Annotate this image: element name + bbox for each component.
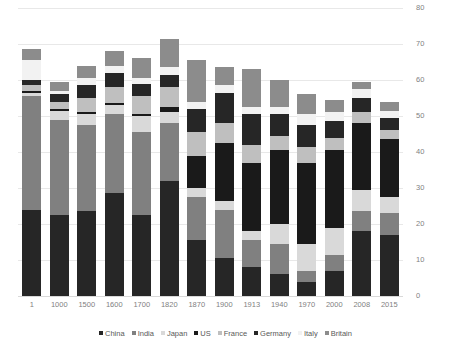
bar-segment-china-1940[interactable] — [270, 274, 289, 296]
bar-segment-japan-1500[interactable] — [77, 114, 96, 125]
bar-segment-france-1900[interactable] — [215, 123, 234, 143]
bar-1970[interactable] — [297, 94, 316, 296]
bar-segment-france-1820[interactable] — [160, 87, 179, 107]
legend-item-china[interactable]: China — [99, 329, 125, 338]
bar-segment-india-1600[interactable] — [105, 114, 124, 193]
bar-segment-italy-1940[interactable] — [270, 107, 289, 114]
legend-item-france[interactable]: France — [218, 329, 247, 338]
bar-1900[interactable] — [215, 67, 234, 296]
bar-segment-india-2000[interactable] — [325, 255, 344, 271]
bar-segment-britain-1000[interactable] — [50, 82, 69, 91]
bar-segment-india-1700[interactable] — [132, 132, 151, 215]
bar-segment-britain-1900[interactable] — [215, 67, 234, 85]
bar-segment-china-1000[interactable] — [50, 215, 69, 296]
bar-segment-france-2000[interactable] — [325, 138, 344, 151]
bar-segment-germany-1820[interactable] — [160, 75, 179, 88]
bar-segment-us-1900[interactable] — [215, 143, 234, 201]
legend-item-us[interactable]: US — [194, 329, 210, 338]
bar-segment-china-2015[interactable] — [380, 235, 399, 296]
bar-segment-italy-1600[interactable] — [105, 66, 124, 73]
bar-segment-china-1900[interactable] — [215, 258, 234, 296]
bar-segment-japan-2008[interactable] — [352, 190, 371, 212]
bar-segment-france-2015[interactable] — [380, 130, 399, 139]
bar-segment-japan-1600[interactable] — [105, 105, 124, 114]
bar-segment-china-1970[interactable] — [297, 282, 316, 296]
bar-segment-india-1870[interactable] — [187, 197, 206, 240]
bar-segment-china-1820[interactable] — [160, 181, 179, 296]
bar-segment-us-2000[interactable] — [325, 150, 344, 227]
bar-segment-china-2000[interactable] — [325, 271, 344, 296]
bar-segment-us-1970[interactable] — [297, 163, 316, 244]
bar-segment-india-1940[interactable] — [270, 244, 289, 275]
bar-segment-china-1[interactable] — [22, 210, 41, 296]
bar-segment-japan-1970[interactable] — [297, 244, 316, 271]
bar-segment-japan-2000[interactable] — [325, 228, 344, 255]
bar-1820[interactable] — [160, 39, 179, 296]
bar-segment-china-1700[interactable] — [132, 215, 151, 296]
bar-1500[interactable] — [77, 66, 96, 296]
bar-2000[interactable] — [325, 100, 344, 296]
bar-segment-japan-1900[interactable] — [215, 201, 234, 210]
bar-segment-china-1600[interactable] — [105, 193, 124, 296]
bar-segment-india-1820[interactable] — [160, 123, 179, 181]
bar-segment-france-2008[interactable] — [352, 112, 371, 123]
bar-segment-japan-1820[interactable] — [160, 112, 179, 123]
bar-segment-britain-1[interactable] — [22, 49, 41, 60]
bar-segment-india-2008[interactable] — [352, 211, 371, 231]
bar-2008[interactable] — [352, 82, 371, 296]
bar-segment-japan-1913[interactable] — [242, 231, 261, 240]
bar-segment-japan-1700[interactable] — [132, 116, 151, 132]
bar-segment-us-1913[interactable] — [242, 163, 261, 231]
bar-segment-france-1913[interactable] — [242, 145, 261, 163]
bar-segment-china-1913[interactable] — [242, 267, 261, 296]
bar-segment-britain-2008[interactable] — [352, 82, 371, 89]
bar-segment-italy-1820[interactable] — [160, 67, 179, 74]
bar-segment-france-1500[interactable] — [77, 98, 96, 112]
bar-segment-germany-1900[interactable] — [215, 93, 234, 124]
bar-1[interactable] — [22, 49, 41, 296]
bar-segment-france-1970[interactable] — [297, 147, 316, 163]
bar-segment-britain-1940[interactable] — [270, 80, 289, 107]
bar-segment-italy-1500[interactable] — [77, 78, 96, 85]
bar-segment-india-1913[interactable] — [242, 240, 261, 267]
bar-segment-britain-1820[interactable] — [160, 39, 179, 68]
bar-segment-us-2015[interactable] — [380, 139, 399, 197]
bar-1870[interactable] — [187, 60, 206, 296]
bar-segment-india-1970[interactable] — [297, 271, 316, 282]
bar-segment-us-2008[interactable] — [352, 123, 371, 190]
bar-1700[interactable] — [132, 58, 151, 296]
bar-2015[interactable] — [380, 102, 399, 296]
bar-segment-italy-1900[interactable] — [215, 85, 234, 92]
bar-segment-italy-1[interactable] — [22, 60, 41, 80]
bar-segment-britain-2015[interactable] — [380, 102, 399, 111]
bar-segment-italy-2000[interactable] — [325, 112, 344, 121]
bar-segment-italy-1913[interactable] — [242, 107, 261, 114]
bar-segment-britain-1970[interactable] — [297, 94, 316, 114]
bar-segment-germany-1970[interactable] — [297, 125, 316, 147]
bar-segment-britain-2000[interactable] — [325, 100, 344, 113]
bar-segment-france-1940[interactable] — [270, 136, 289, 150]
bar-segment-us-1940[interactable] — [270, 150, 289, 224]
bar-segment-germany-1940[interactable] — [270, 114, 289, 136]
legend-item-britain[interactable]: Britain — [325, 329, 352, 338]
bar-1940[interactable] — [270, 80, 289, 296]
bar-1600[interactable] — [105, 51, 124, 296]
bar-segment-india-1000[interactable] — [50, 120, 69, 215]
legend-item-japan[interactable]: Japan — [161, 329, 187, 338]
bar-segment-britain-1913[interactable] — [242, 69, 261, 107]
bar-segment-germany-1600[interactable] — [105, 73, 124, 87]
bar-segment-france-1700[interactable] — [132, 96, 151, 114]
bar-segment-us-1870[interactable] — [187, 156, 206, 188]
bar-segment-germany-1700[interactable] — [132, 84, 151, 97]
bar-segment-germany-1870[interactable] — [187, 109, 206, 132]
bar-segment-france-1000[interactable] — [50, 102, 69, 109]
bar-segment-japan-2015[interactable] — [380, 197, 399, 213]
bar-segment-italy-1870[interactable] — [187, 102, 206, 109]
bar-segment-china-1870[interactable] — [187, 240, 206, 296]
bar-segment-germany-2000[interactable] — [325, 121, 344, 137]
bar-segment-britain-1500[interactable] — [77, 66, 96, 79]
bar-segment-germany-1500[interactable] — [77, 85, 96, 98]
bar-segment-france-1600[interactable] — [105, 87, 124, 103]
legend-item-germany[interactable]: Germany — [254, 329, 291, 338]
legend-item-italy[interactable]: Italy — [298, 329, 318, 338]
